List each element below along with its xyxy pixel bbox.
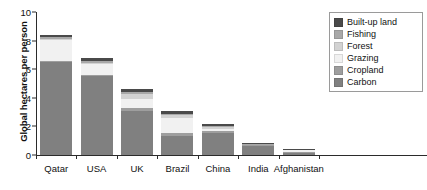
stacked-bar[interactable] <box>40 35 72 155</box>
legend-label: Fishing <box>347 29 376 40</box>
legend-label: Built-up land <box>347 17 397 28</box>
x-tick-label: Qatar <box>44 163 68 174</box>
plot-area: 0246810 QatarUSAUKBrazilChinaIndiaAfghan… <box>36 12 319 156</box>
x-tick-label: China <box>206 163 231 174</box>
bar-segment <box>40 40 72 61</box>
y-tick-label: 8 <box>2 35 36 46</box>
x-tick-label: Afghanistan <box>274 163 324 174</box>
x-tick-mark <box>76 155 77 159</box>
stacked-bar[interactable] <box>242 143 274 155</box>
x-tick-label: Brazil <box>166 163 190 174</box>
x-axis-line <box>36 155 427 156</box>
bar-segment <box>283 153 315 155</box>
bar-slot <box>117 12 157 155</box>
x-tick-mark <box>238 155 239 159</box>
x-tick-mark <box>157 155 158 159</box>
bar-segment <box>40 62 72 155</box>
legend-swatch-icon <box>334 54 343 63</box>
bar-segment <box>81 64 113 74</box>
legend-swatch-icon <box>334 18 343 27</box>
x-tick-mark <box>279 155 280 159</box>
legend-swatch-icon <box>334 30 343 39</box>
x-tick-label: India <box>248 163 269 174</box>
x-tick-label: USA <box>87 163 107 174</box>
bar-slot <box>279 12 319 155</box>
x-tick-mark <box>117 155 118 159</box>
bar-segment <box>121 99 153 108</box>
y-tick-label: 6 <box>2 64 36 75</box>
legend-swatch-icon <box>334 42 343 51</box>
chart-legend: Built-up landFishingForestGrazingCroplan… <box>329 12 423 92</box>
bar-segment <box>81 76 113 155</box>
legend-item[interactable]: Cropland <box>334 64 418 76</box>
legend-item[interactable]: Fishing <box>334 28 418 40</box>
stacked-bar[interactable] <box>202 124 234 155</box>
y-tick-label: 4 <box>2 92 36 103</box>
legend-item[interactable]: Grazing <box>334 52 418 64</box>
bar-slot <box>36 12 76 155</box>
bar-segment <box>242 146 274 155</box>
y-tick-label: 0 <box>2 150 36 161</box>
legend-item[interactable]: Built-up land <box>334 16 418 28</box>
stacked-bar-chart: Global hectares per person 0246810 Qatar… <box>0 0 427 190</box>
bar-segment <box>121 111 153 155</box>
bar-slot <box>157 12 197 155</box>
stacked-bar[interactable] <box>283 149 315 155</box>
bar-segment <box>202 133 234 155</box>
x-tick-mark <box>319 155 320 159</box>
x-tick-mark <box>36 155 37 159</box>
legend-label: Grazing <box>347 53 379 64</box>
legend-swatch-icon <box>334 78 343 87</box>
bar-slot <box>76 12 116 155</box>
y-axis-title: Global hectares per person <box>18 7 29 157</box>
x-tick-mark <box>198 155 199 159</box>
y-tick-label: 2 <box>2 121 36 132</box>
bar-segment <box>161 136 193 155</box>
bar-slot <box>198 12 238 155</box>
bar-slot <box>238 12 278 155</box>
stacked-bar[interactable] <box>121 89 153 155</box>
legend-label: Carbon <box>347 77 377 88</box>
stacked-bar[interactable] <box>161 111 193 155</box>
legend-label: Cropland <box>347 65 384 76</box>
stacked-bar[interactable] <box>81 58 113 155</box>
legend-label: Forest <box>347 41 373 52</box>
bar-segment <box>161 118 193 133</box>
legend-swatch-icon <box>334 66 343 75</box>
legend-item[interactable]: Forest <box>334 40 418 52</box>
y-tick-label: 10 <box>2 7 36 18</box>
x-tick-label: UK <box>130 163 143 174</box>
legend-item[interactable]: Carbon <box>334 76 418 88</box>
bar-group <box>36 12 319 155</box>
